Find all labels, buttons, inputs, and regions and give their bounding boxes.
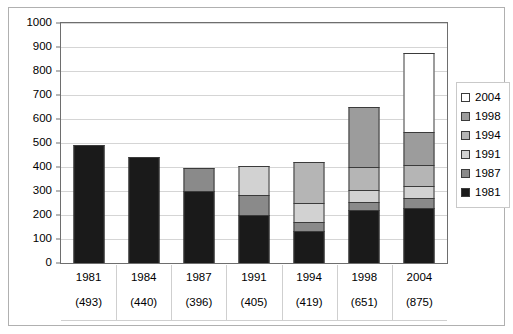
legend-item-2004[interactable]: 2004 bbox=[461, 88, 506, 107]
y-axis-tick-label: 600 bbox=[33, 113, 52, 125]
y-axis-tick-label: 400 bbox=[33, 161, 52, 173]
bar-stack[interactable] bbox=[183, 168, 214, 263]
bar-segment-1998[interactable] bbox=[349, 107, 380, 167]
x-axis-category-1994: 1994(419) bbox=[282, 265, 337, 321]
x-axis-labels: 1981(493)1984(440)1987(396)1991(405)1994… bbox=[61, 265, 447, 321]
x-axis-year-label: 1998 bbox=[337, 272, 392, 284]
legend-label: 1994 bbox=[475, 130, 501, 142]
bar-stack[interactable] bbox=[294, 162, 325, 263]
y-axis-tick-label: 700 bbox=[33, 89, 52, 101]
x-axis-divider bbox=[226, 265, 227, 321]
bar-segment-1981[interactable] bbox=[73, 145, 104, 263]
bar-slot-1984 bbox=[116, 23, 171, 263]
bar-segment-1994[interactable] bbox=[294, 162, 325, 203]
x-axis-year-label: 1991 bbox=[226, 272, 281, 284]
bar-slot-1991 bbox=[226, 23, 281, 263]
x-axis-year-label: 2004 bbox=[392, 272, 447, 284]
bar-stack[interactable] bbox=[128, 157, 159, 263]
legend-label: 1991 bbox=[475, 149, 501, 161]
y-axis-tick-label: 0 bbox=[46, 257, 52, 269]
bar-stack[interactable] bbox=[404, 53, 435, 263]
legend-swatch-icon bbox=[461, 112, 470, 121]
x-axis-category-1984: 1984(440) bbox=[116, 265, 171, 321]
bar-segment-1981[interactable] bbox=[349, 210, 380, 263]
bar-segment-1987[interactable] bbox=[294, 222, 325, 230]
legend-swatch-icon bbox=[461, 169, 470, 178]
legend-item-1994[interactable]: 1994 bbox=[461, 126, 506, 145]
x-axis-year-label: 1994 bbox=[282, 272, 337, 284]
x-axis-year-label: 1981 bbox=[61, 272, 116, 284]
bar-segment-1981[interactable] bbox=[128, 157, 159, 263]
bar-segment-1991[interactable] bbox=[349, 190, 380, 202]
legend-item-1991[interactable]: 1991 bbox=[461, 145, 506, 164]
y-axis-tick-label: 800 bbox=[33, 65, 52, 77]
x-axis-divider bbox=[392, 265, 393, 321]
x-axis-category-2004: 2004(875) bbox=[392, 265, 447, 321]
x-axis-divider bbox=[337, 265, 338, 321]
y-axis-tick-label: 900 bbox=[33, 41, 52, 53]
bar-segment-1994[interactable] bbox=[349, 167, 380, 190]
x-axis-total-label: (875) bbox=[392, 297, 447, 309]
y-axis-tick-label: 100 bbox=[33, 233, 52, 245]
bar-segment-1991[interactable] bbox=[404, 186, 435, 198]
legend-item-1998[interactable]: 1998 bbox=[461, 107, 506, 126]
x-axis-category-1981: 1981(493) bbox=[61, 265, 116, 321]
x-axis-total-label: (493) bbox=[61, 297, 116, 309]
bar-segment-1981[interactable] bbox=[294, 231, 325, 263]
bar-slot-1987 bbox=[171, 23, 226, 263]
legend-label: 2004 bbox=[475, 92, 501, 104]
bar-segment-1981[interactable] bbox=[183, 191, 214, 263]
x-axis-divider bbox=[116, 265, 117, 321]
bar-slot-1998 bbox=[337, 23, 392, 263]
bar-segment-1987[interactable] bbox=[349, 202, 380, 210]
y-axis-tick-label: 500 bbox=[33, 137, 52, 149]
bar-segment-1981[interactable] bbox=[404, 208, 435, 263]
x-axis-total-label: (651) bbox=[337, 297, 392, 309]
bar-stack[interactable] bbox=[349, 107, 380, 263]
bar-segment-2004[interactable] bbox=[404, 53, 435, 132]
legend-swatch-icon bbox=[461, 131, 470, 140]
bar-segment-1998[interactable] bbox=[404, 132, 435, 164]
bar-slot-1981 bbox=[61, 23, 116, 263]
legend-label: 1998 bbox=[475, 111, 501, 123]
y-axis-tick-label: 300 bbox=[33, 185, 52, 197]
x-axis-divider bbox=[171, 265, 172, 321]
x-axis-total-label: (419) bbox=[282, 297, 337, 309]
bar-segment-1991[interactable] bbox=[294, 203, 325, 222]
bar-segment-1981[interactable] bbox=[238, 215, 269, 263]
x-axis-category-1998: 1998(651) bbox=[337, 265, 392, 321]
legend-item-1981[interactable]: 1981 bbox=[461, 183, 506, 202]
bar-slot-2004 bbox=[392, 23, 447, 263]
legend-swatch-icon bbox=[461, 188, 470, 197]
bar-segment-1987[interactable] bbox=[404, 198, 435, 208]
y-axis: 10009008007006005004003002001000 bbox=[0, 22, 56, 264]
legend-swatch-icon bbox=[461, 93, 470, 102]
bar-segment-1991[interactable] bbox=[238, 166, 269, 195]
bar-segment-1987[interactable] bbox=[238, 195, 269, 215]
x-axis-divider bbox=[282, 265, 283, 321]
x-axis-baseline bbox=[61, 320, 447, 321]
bar-segment-1994[interactable] bbox=[404, 165, 435, 187]
bar-stack[interactable] bbox=[238, 166, 269, 263]
chart-legend: 200419981994199119871981 bbox=[456, 82, 510, 208]
x-axis-category-1991: 1991(405) bbox=[226, 265, 281, 321]
legend-swatch-icon bbox=[461, 150, 470, 159]
x-axis-total-label: (405) bbox=[226, 297, 281, 309]
y-axis-tick-label: 1000 bbox=[26, 17, 52, 29]
legend-item-1987[interactable]: 1987 bbox=[461, 164, 506, 183]
legend-label: 1981 bbox=[475, 187, 501, 199]
bar-slot-1994 bbox=[282, 23, 337, 263]
bars-layer bbox=[61, 23, 447, 263]
bar-segment-1987[interactable] bbox=[183, 168, 214, 191]
y-axis-tick-label: 200 bbox=[33, 209, 52, 221]
x-axis-year-label: 1987 bbox=[171, 272, 226, 284]
bar-stack[interactable] bbox=[73, 145, 104, 263]
x-axis-total-label: (440) bbox=[116, 297, 171, 309]
x-axis-year-label: 1984 bbox=[116, 272, 171, 284]
x-axis-category-1987: 1987(396) bbox=[171, 265, 226, 321]
x-axis-total-label: (396) bbox=[171, 297, 226, 309]
chart-container: 10009008007006005004003002001000 1981(49… bbox=[0, 0, 513, 334]
legend-label: 1987 bbox=[475, 168, 501, 180]
